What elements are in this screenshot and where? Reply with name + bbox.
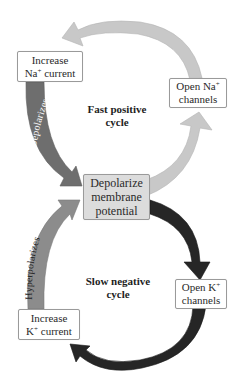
fast-cycle-arrow-top — [62, 21, 202, 80]
node-open-na-line2: channels — [179, 93, 217, 106]
node-open-k-line2: channels — [182, 294, 220, 307]
slow-negative-cycle-label: Slow negative cycle — [78, 275, 158, 301]
node-depolarize-line3: potential — [96, 204, 138, 218]
node-increase-k-line1: Increase — [31, 312, 68, 325]
node-depolarize-line2: membrane — [91, 190, 142, 204]
node-open-k-channels: Open K+ channels — [175, 279, 227, 309]
node-increase-k-line2: K+ current — [26, 325, 72, 338]
node-open-na-channels: Open Na+ channels — [169, 78, 227, 108]
node-open-k-line1: Open K+ — [182, 281, 220, 294]
node-increase-k-current: Increase K+ current — [18, 309, 80, 340]
slow-cycle-arrow-bottom — [70, 305, 206, 370]
node-open-na-line1: Open Na+ — [176, 80, 219, 93]
slow-cycle-arrow-down — [150, 200, 210, 280]
fast-cycle-arrow-up — [146, 112, 212, 196]
fast-positive-cycle-label: Fast positive cycle — [82, 103, 152, 129]
node-increase-na-current: Increase Na+ current — [17, 51, 83, 82]
node-increase-na-line2: Na+ current — [25, 67, 76, 80]
node-depolarize-membrane-potential: Depolarize membrane potential — [83, 174, 150, 220]
node-depolarize-line1: Depolarize — [90, 176, 143, 190]
node-increase-na-line1: Increase — [32, 54, 69, 67]
